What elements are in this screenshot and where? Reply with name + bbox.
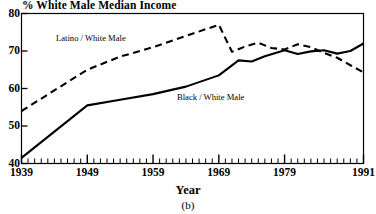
x-tick-1959: 1959 <box>132 166 174 178</box>
x-tick-1939: 1939 <box>1 166 43 178</box>
figure-caption: (b) <box>0 199 376 211</box>
figure-panel: % White Male Median Income 4050607080 19… <box>0 0 376 214</box>
x-tick-1949: 1949 <box>66 166 108 178</box>
x-tick-1969: 1969 <box>198 166 240 178</box>
y-tick-80: 80 <box>0 7 20 19</box>
x-tick-1991: 1991 <box>343 166 376 178</box>
series-label-black: Black / White Male <box>177 92 244 102</box>
x-axis-title: Year <box>0 183 376 198</box>
y-tick-50: 50 <box>0 119 20 131</box>
series-label-latino: Latino / White Male <box>56 33 126 43</box>
y-tick-60: 60 <box>0 82 20 94</box>
x-tick-1979: 1979 <box>264 166 306 178</box>
y-tick-70: 70 <box>0 44 20 56</box>
